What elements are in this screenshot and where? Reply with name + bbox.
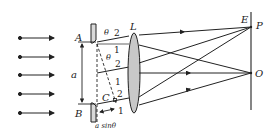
label-C: C [102,92,110,103]
label-E: E [240,14,249,25]
label-a-sin-theta: a sinθ [95,122,117,130]
lens [128,33,140,113]
label-P: P [255,20,263,31]
incident-rays [18,36,54,114]
label-L: L [129,21,137,32]
ray-number: 1 [114,45,120,55]
label-a: a [71,69,77,80]
ray-number: 2 [114,28,120,38]
label-theta-mid: θ [106,53,111,62]
slit [91,24,96,122]
label-O: O [255,68,263,79]
slit-bottom-plate [91,103,96,122]
ray-number: 2 [115,59,121,69]
slit-top-plate [91,24,96,43]
path-difference-arrow [100,109,114,112]
diffraction-diagram: A B C a L E P O θ θ a sinθ 2 1 2 1 2 1 [0,0,278,139]
focused-rays [139,27,251,105]
ray-number: 2 [117,89,123,99]
ray-number: 1 [115,77,121,87]
label-B: B [74,108,82,119]
label-A: A [74,32,82,43]
label-theta-top: θ [104,28,109,37]
ray-number: 1 [118,106,124,116]
